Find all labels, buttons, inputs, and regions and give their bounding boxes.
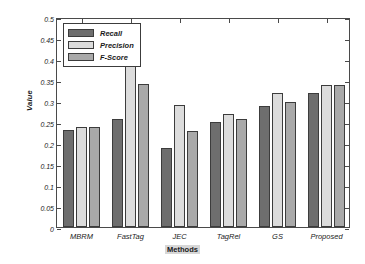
y-tick-mark [57, 124, 61, 125]
y-tick-mark [57, 61, 61, 62]
y-tick-mark [57, 145, 61, 146]
x-tick-label-tagrel: TagRel [217, 232, 241, 241]
bar-jec-recall [161, 148, 173, 227]
legend-swatch-recall-icon [68, 29, 94, 37]
y-tick-mark-right [345, 82, 349, 83]
x-tick-mark-top [229, 19, 230, 23]
bar-chart-figure: Value 00.050.10.150.20.250.30.350.40.450… [0, 0, 365, 264]
bar-mbrm-recall [63, 130, 75, 227]
x-tick-mark-top [180, 19, 181, 23]
y-tick-mark-right [345, 166, 349, 167]
y-tick-label: 0.35 [40, 79, 54, 86]
y-tick-mark-right [345, 103, 349, 104]
y-tick-mark [57, 82, 61, 83]
y-tick-mark [57, 103, 61, 104]
y-tick-label: 0.15 [40, 163, 54, 170]
y-tick-label: 0.45 [40, 37, 54, 44]
legend-item-recall: Recall [68, 27, 134, 39]
bar-mbrm-precision [76, 127, 88, 227]
legend-swatch-precision-icon [68, 41, 94, 49]
y-tick-mark [57, 166, 61, 167]
bar-mbrm-f-score [89, 127, 101, 227]
y-tick-mark-right [345, 145, 349, 146]
y-tick-mark [57, 208, 61, 209]
y-tick-mark-right [345, 229, 349, 230]
y-tick-label: 0.5 [44, 16, 54, 23]
plot-area: 00.050.10.150.20.250.30.350.40.450.5 MBR… [56, 18, 350, 228]
bar-jec-f-score [187, 131, 199, 227]
y-tick-label: 0.25 [40, 121, 54, 128]
bar-proposed-recall [308, 93, 320, 227]
x-tick-mark-top [327, 19, 328, 23]
legend-item-fscore: F-Score [68, 51, 134, 63]
bar-tagrel-recall [210, 122, 222, 227]
bar-tagrel-f-score [236, 119, 248, 227]
y-tick-mark [57, 19, 61, 20]
x-tick-label-jec: JEC [172, 232, 186, 241]
bar-jec-precision [174, 105, 186, 227]
y-tick-label: 0 [50, 226, 54, 233]
bar-fasttag-recall [112, 119, 124, 227]
y-tick-mark [57, 187, 61, 188]
legend-item-precision: Precision [68, 39, 134, 51]
y-tick-label: 0.1 [44, 184, 54, 191]
x-axis-label: Methods [0, 245, 365, 254]
bar-proposed-precision [321, 85, 333, 227]
legend-label-recall: Recall [100, 29, 122, 38]
x-tick-label-fasttag: FastTag [117, 232, 144, 241]
y-tick-label: 0.3 [44, 100, 54, 107]
y-tick-label: 0.4 [44, 58, 54, 65]
x-axis-label-text: Methods [165, 245, 200, 254]
y-tick-mark-right [345, 208, 349, 209]
y-tick-mark-right [345, 19, 349, 20]
x-tick-label-gs: GS [272, 232, 283, 241]
y-tick-mark-right [345, 124, 349, 125]
bar-gs-recall [259, 106, 271, 227]
x-tick-mark-top [278, 19, 279, 23]
legend-label-precision: Precision [100, 41, 134, 50]
y-tick-mark [57, 229, 61, 230]
bar-proposed-f-score [334, 85, 346, 227]
y-tick-label: 0.2 [44, 142, 54, 149]
x-tick-label-mbrm: MBRM [70, 232, 93, 241]
legend-swatch-fscore-icon [68, 53, 94, 61]
y-tick-mark [57, 40, 61, 41]
y-tick-mark-right [345, 187, 349, 188]
y-axis-label: Value [25, 66, 34, 136]
legend: Recall Precision F-Score [63, 23, 141, 67]
y-tick-mark-right [345, 40, 349, 41]
bar-tagrel-precision [223, 114, 235, 227]
y-tick-label: 0.05 [40, 205, 54, 212]
x-tick-label-proposed: Proposed [310, 232, 342, 241]
bar-fasttag-f-score [138, 84, 150, 227]
y-tick-mark-right [345, 61, 349, 62]
bar-gs-precision [272, 93, 284, 227]
legend-label-fscore: F-Score [100, 53, 128, 62]
bar-gs-f-score [285, 102, 297, 227]
